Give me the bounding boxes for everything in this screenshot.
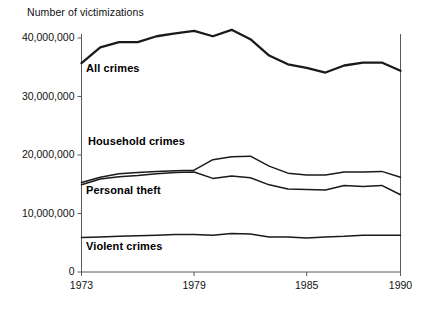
series-label-household-crimes: Household crimes	[88, 135, 185, 147]
series-label-violent-crimes: Violent crimes	[86, 240, 162, 252]
series-line-household-crimes	[82, 156, 401, 182]
y-tick-label: 30,000,000	[22, 90, 75, 102]
y-tick-label: 20,000,000	[22, 148, 75, 160]
y-tick-label: 0	[69, 265, 75, 277]
series-label-personal-theft: Personal theft	[86, 184, 161, 196]
y-tick-label: 10,000,000	[22, 207, 75, 219]
x-tick-label: 1979	[164, 279, 224, 291]
series-line-violent-crimes	[82, 233, 401, 238]
x-tick-label: 1985	[277, 279, 337, 291]
victimizations-line-chart: Number of victimizations 010,000,00020,0…	[0, 0, 432, 311]
y-tick-label: 40,000,000	[22, 31, 75, 43]
x-tick-label: 1973	[52, 279, 112, 291]
series-label-all-crimes: All crimes	[86, 62, 140, 74]
x-tick-label: 1990	[371, 279, 431, 291]
